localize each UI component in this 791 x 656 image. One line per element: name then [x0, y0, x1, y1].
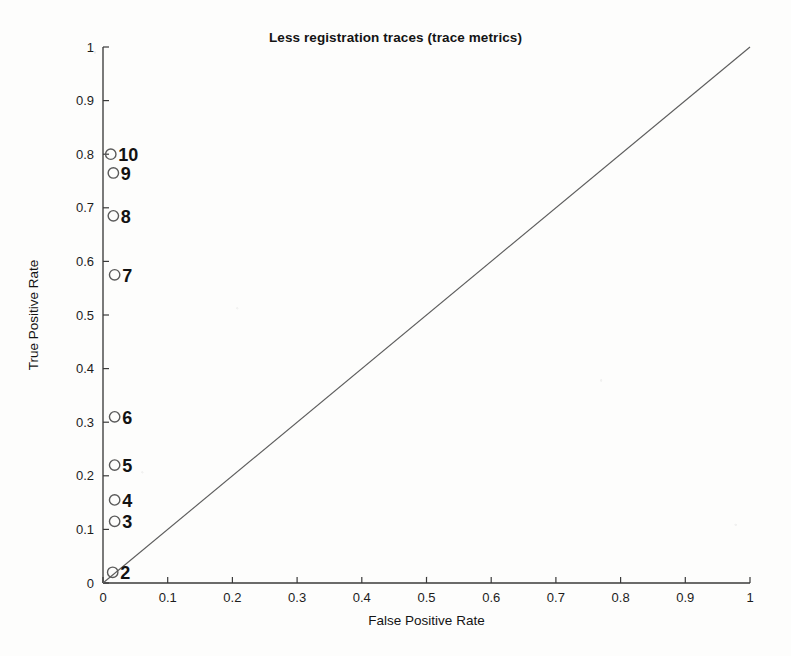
- axis-title-layer: False Positive RateTrue Positive Rate: [26, 260, 485, 628]
- x-tick-label: 0.2: [223, 590, 241, 605]
- y-tick-label: 0.6: [76, 254, 94, 269]
- y-tick-label: 0.5: [76, 308, 94, 323]
- x-tick-label: 0.3: [288, 590, 306, 605]
- reference-line-layer: [103, 47, 750, 583]
- x-tick-label: 1: [746, 590, 753, 605]
- data-point-marker[interactable]: [109, 495, 119, 505]
- y-axis-title: True Positive Rate: [26, 260, 41, 371]
- chance-diagonal: [103, 47, 750, 583]
- data-point-label: 8: [121, 207, 131, 227]
- data-point-marker[interactable]: [109, 460, 119, 470]
- data-point-marker[interactable]: [108, 211, 118, 221]
- data-point-layer: 2345678910: [106, 145, 139, 583]
- y-tick-label: 0.1: [76, 522, 94, 537]
- data-point-marker[interactable]: [109, 412, 119, 422]
- y-tick-label: 0.8: [76, 147, 94, 162]
- x-tick-label: 0.4: [353, 590, 371, 605]
- data-point-label: 3: [122, 512, 132, 532]
- data-point-marker[interactable]: [108, 168, 118, 178]
- y-tick-label: 1: [87, 40, 94, 55]
- chart-page: Less registration traces (trace metrics)…: [0, 0, 791, 656]
- data-point-label: 7: [122, 266, 132, 286]
- data-point-label: 9: [121, 164, 131, 184]
- x-axis-title: False Positive Rate: [368, 613, 484, 628]
- axis-layer: 00.10.20.30.40.50.60.70.80.9100.10.20.30…: [76, 40, 754, 606]
- y-tick-label: 0.2: [76, 468, 94, 483]
- x-tick-label: 0.5: [417, 590, 435, 605]
- x-tick-label: 0.1: [159, 590, 177, 605]
- data-point-label: 2: [120, 563, 130, 583]
- data-point-label: 4: [122, 491, 132, 511]
- x-tick-label: 0: [99, 590, 106, 605]
- data-point-marker[interactable]: [109, 270, 119, 280]
- y-tick-label: 0.3: [76, 415, 94, 430]
- x-tick-label: 0.7: [547, 590, 565, 605]
- y-tick-label: 0.4: [76, 361, 94, 376]
- x-tick-label: 0.6: [482, 590, 500, 605]
- x-tick-label: 0.9: [676, 590, 694, 605]
- data-point-marker[interactable]: [109, 516, 119, 526]
- y-tick-label: 0.7: [76, 200, 94, 215]
- y-tick-label: 0.9: [76, 93, 94, 108]
- roc-plot: 00.10.20.30.40.50.60.70.80.9100.10.20.30…: [0, 0, 791, 656]
- data-point-label: 5: [122, 456, 132, 476]
- x-tick-label: 0.8: [612, 590, 630, 605]
- y-tick-label: 0: [87, 576, 94, 591]
- data-point-label: 6: [122, 408, 132, 428]
- data-point-label: 10: [118, 145, 138, 165]
